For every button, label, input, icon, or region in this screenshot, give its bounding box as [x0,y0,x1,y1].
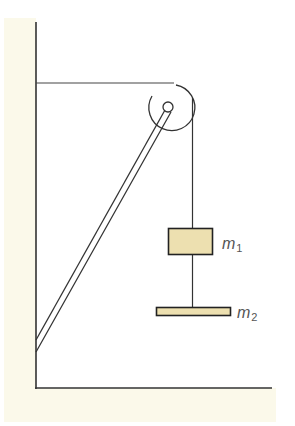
floor-surface [4,388,276,422]
pulley-axle [163,102,173,112]
wall-surface [4,18,36,422]
mass-m2-plate [157,308,231,316]
pulley [149,85,195,131]
support-rod [36,110,171,352]
label-m2: m2 [237,304,257,323]
pulley-diagram: m1 m2 [0,0,295,426]
mass-m1-block [169,229,213,255]
label-m1: m1 [222,235,242,254]
